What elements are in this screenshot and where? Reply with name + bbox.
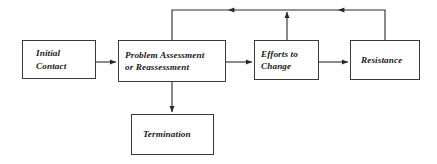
node-resistance-label-line1: Resistance (361, 54, 419, 66)
node-initial-contact-label-line2: Contact (36, 60, 95, 72)
node-problem-assessment[interactable]: Problem Assessment or Reassessment (118, 40, 226, 82)
node-efforts-to-change-label-line1: Efforts to (261, 48, 318, 60)
node-termination[interactable]: Termination (131, 114, 214, 155)
node-initial-contact-label-line1: Initial (36, 47, 95, 59)
node-efforts-to-change-label-line2: Change (261, 60, 318, 72)
node-termination-label-line1: Termination (143, 128, 213, 140)
diagram-connectors (0, 0, 437, 164)
diagram-canvas: Initial Contact Problem Assessment or Re… (0, 0, 437, 164)
node-efforts-to-change[interactable]: Efforts to Change (254, 40, 319, 80)
node-initial-contact[interactable]: Initial Contact (22, 40, 96, 79)
node-resistance[interactable]: Resistance (350, 40, 420, 80)
edge-resistance-to-problem (172, 10, 385, 40)
node-problem-assessment-label-line2: or Reassessment (125, 61, 225, 73)
node-problem-assessment-label-line1: Problem Assessment (125, 49, 225, 61)
